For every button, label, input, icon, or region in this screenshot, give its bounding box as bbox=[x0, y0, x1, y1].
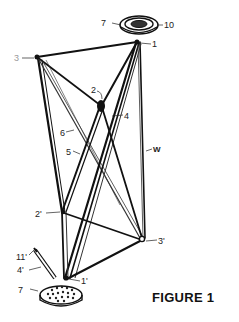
patent-figure: 7 10 1 3 2 4 6 5 W 2' 3' 11' 4' 7 1' bbox=[0, 0, 239, 322]
label-wire-w: W bbox=[153, 145, 161, 154]
label-bottom-disc: 7 bbox=[18, 285, 23, 295]
label-node-2: 2 bbox=[91, 85, 96, 95]
leader-lines bbox=[22, 23, 163, 291]
label-node-1-prime: 1' bbox=[81, 276, 88, 286]
node-2-prime bbox=[61, 210, 65, 214]
bottom-disc bbox=[40, 286, 82, 306]
label-top-disc-inner: 10 bbox=[164, 20, 174, 30]
valve-tube bbox=[34, 248, 55, 278]
label-node-2-prime: 2' bbox=[35, 209, 42, 219]
label-strut-6: 6 bbox=[60, 128, 65, 138]
node-2 bbox=[97, 100, 105, 112]
node-1-prime bbox=[63, 275, 68, 280]
truss-frame bbox=[37, 42, 145, 279]
label-valve-11-prime: 11' bbox=[16, 252, 27, 262]
label-node-1: 1 bbox=[152, 39, 157, 49]
figure-caption: FIGURE 1 bbox=[152, 290, 214, 305]
label-node-3-prime: 3' bbox=[158, 236, 165, 246]
top-disc bbox=[120, 16, 158, 34]
label-node-3: 3 bbox=[14, 53, 19, 63]
node-3-prime bbox=[139, 236, 144, 241]
label-tube-4-prime: 4' bbox=[17, 265, 24, 275]
label-strut-5: 5 bbox=[66, 147, 71, 157]
label-strut-4: 4 bbox=[124, 111, 129, 121]
node-1 bbox=[135, 40, 140, 45]
node-3 bbox=[35, 55, 40, 60]
label-top-disc: 7 bbox=[101, 18, 106, 28]
